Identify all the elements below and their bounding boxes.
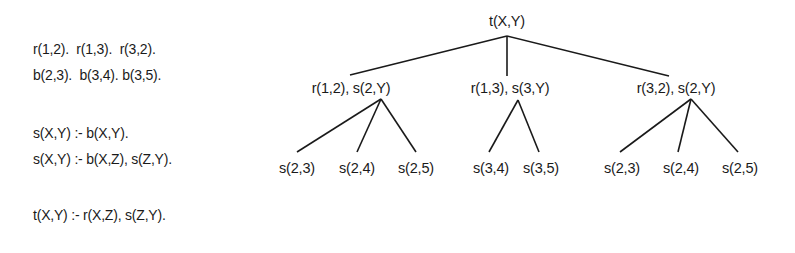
tree-leaf: s(2,3) [604,160,640,176]
tree-leaf: s(2,4) [339,160,375,176]
tree-node-l1-1: r(1,3), s(3,Y) [471,80,550,96]
tree-leaf: s(2,5) [722,160,758,176]
tree-leaf: s(2,5) [398,160,434,176]
tree-leaf: s(3,4) [473,160,509,176]
tree-node-l1-0: r(1,2), s(2,Y) [312,80,391,96]
tree-leaf: s(2,4) [663,160,699,176]
tree-leaf: s(2,3) [279,160,315,176]
tree-root: t(X,Y) [489,13,525,29]
tree-node-l1-2: r(3,2), s(2,Y) [637,80,716,96]
tree-edges [0,0,795,253]
tree-leaf: s(3,5) [523,160,559,176]
